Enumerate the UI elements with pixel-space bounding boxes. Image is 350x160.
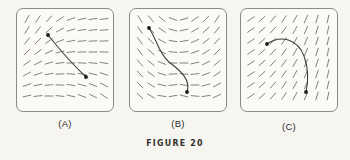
slope-tick [45,50,52,53]
slope-tick [46,27,52,32]
slope-tick [100,83,107,87]
slope-tick [158,84,166,86]
panel-c-label: (C) [240,121,338,132]
slope-tick [248,94,255,98]
slope-tick [148,83,155,87]
slope-tick [270,16,275,22]
panel-c-direction-field [240,8,338,112]
slope-tick [100,30,108,31]
slope-tick [304,26,307,33]
slope-tick [282,93,287,100]
slope-tick [215,27,220,33]
slope-tick [159,39,166,43]
slope-tick [89,84,96,87]
slope-tick [191,39,198,42]
slope-tick [248,61,255,65]
slope-tick [35,50,41,55]
slope-tick [203,27,209,32]
slope-tick [270,27,275,33]
slope-tick [316,37,318,45]
slope-tick [180,84,188,85]
slope-tick [259,93,265,98]
solution-curve [149,28,188,92]
slope-tick [36,27,41,33]
slope-tick [203,16,209,22]
slope-tick [101,94,108,98]
slope-tick [56,40,63,43]
slope-tick [248,39,255,43]
slope-tick [36,16,40,23]
curve-endpoint-dot [46,33,50,37]
slope-tick [293,27,297,34]
slope-tick [327,81,329,89]
slope-tick [327,48,329,56]
slope-tick [202,84,210,86]
slope-tick [293,71,297,78]
slope-tick [293,60,297,67]
curve-endpoint-dot [265,42,269,46]
slope-tick [45,73,53,74]
slope-tick [159,17,165,22]
slope-tick [214,38,219,44]
slope-tick [67,95,75,97]
slope-tick [248,83,255,87]
slope-tick [158,95,166,96]
slope-tick [78,18,86,20]
curve-endpoint-dot [84,75,88,79]
slope-tick [24,49,30,55]
slope-tick [89,73,97,75]
slope-tick [78,41,86,42]
slope-tick [270,93,275,99]
slope-tick [148,61,154,66]
slope-tick [180,95,188,97]
slope-tick [34,96,42,97]
panel-a [16,8,114,112]
slope-tick [89,94,96,98]
slope-tick [248,28,255,32]
slope-tick [191,62,199,64]
slope-tick [327,92,329,100]
slope-tick [282,27,287,34]
panel-c [240,8,338,112]
slope-tick [316,92,318,100]
slope-tick [158,62,165,65]
slope-tick [270,60,275,66]
slope-tick [180,29,188,31]
slope-tick-group [23,15,108,98]
slope-tick [282,71,287,78]
slope-tick [34,61,41,65]
slope-tick [148,94,155,98]
slope-tick [180,52,188,53]
slope-tick [25,38,30,44]
slope-tick [214,60,220,65]
slope-tick [202,73,209,76]
slope-tick [25,15,29,22]
slope-tick [56,28,63,32]
slope-tick [192,28,199,32]
slope-tick [180,40,188,41]
slope-tick [67,52,75,53]
panel-b-direction-field [129,8,227,112]
slope-tick [316,26,318,34]
slope-tick [259,16,265,21]
slope-tick [148,16,153,22]
slope-tick [270,49,275,55]
slope-tick [137,82,143,88]
slope-tick [100,73,108,76]
slope-tick [67,74,75,75]
slope-tick [327,15,329,23]
slope-tick [169,52,177,53]
slope-tick [214,49,220,55]
slope-tick [293,49,297,56]
panel-b-label: (B) [129,118,227,129]
slope-tick [191,74,199,75]
slope-tick [138,38,143,44]
slope-tick [137,93,143,99]
slope-tick [138,16,142,23]
slope-tick [89,18,97,19]
slope-tick [78,84,86,86]
slope-tick [192,17,199,21]
slope-tick [316,70,318,78]
slope-tick [316,81,318,89]
figure-caption: FIGURE 20 [21,138,329,148]
